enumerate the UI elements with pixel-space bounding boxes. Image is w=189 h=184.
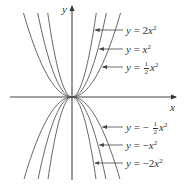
label-neg-2x2: y = −2x2 — [126, 158, 163, 169]
label-x2: y = x2 — [126, 44, 151, 55]
label-half-x2: y = 12x2 — [126, 61, 159, 76]
y-axis-label: y — [62, 3, 67, 15]
x-axis-label: x — [170, 101, 175, 113]
label-neg-x2: y = −x2 — [126, 140, 157, 151]
label-2x2: y = 2x2 — [126, 25, 157, 36]
label-neg-half-x2: y = − 12x2 — [126, 121, 167, 136]
